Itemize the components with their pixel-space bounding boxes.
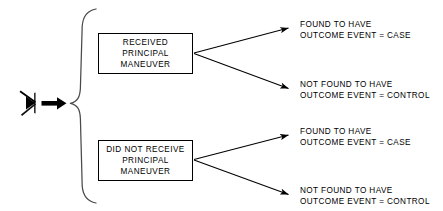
outcome-label-not-received-control: NOT FOUND TO HAVE OUTCOME EVENT = CONTRO… (300, 185, 430, 208)
node-box-received-line-3: MANEUVER (120, 59, 170, 70)
outcome-label-not-received-control-line-2: OUTCOME EVENT = CONTROL (300, 196, 430, 207)
node-box-not-received-line-2: PRINCIPAL (122, 155, 169, 166)
node-box-not-received-line-3: MANEUVER (120, 166, 170, 177)
outcome-label-not-received-case-line-1: FOUND TO HAVE (300, 126, 411, 137)
outcome-label-received-case-line-2: OUTCOME EVENT = CASE (300, 30, 411, 41)
outcome-label-not-received-case: FOUND TO HAVE OUTCOME EVENT = CASE (300, 126, 411, 149)
outcome-label-received-control-line-1: NOT FOUND TO HAVE (300, 79, 430, 90)
node-box-received-line-2: PRINCIPAL (122, 48, 169, 59)
arrowhead-left-glyph (20, 91, 37, 116)
branch-arrows-received (194, 28, 289, 89)
outcome-label-not-received-case-line-2: OUTCOME EVENT = CASE (300, 137, 411, 148)
outcome-label-received-control: NOT FOUND TO HAVE OUTCOME EVENT = CONTRO… (300, 79, 430, 102)
bold-right-arrow-icon (42, 97, 67, 109)
node-box-received-line-1: RECEIVED (123, 37, 168, 48)
node-box-not-received-line-1: DID NOT RECEIVE (106, 144, 184, 155)
node-box-not-received: DID NOT RECEIVE PRINCIPAL MANEUVER (98, 140, 193, 181)
outcome-label-not-received-control-line-1: NOT FOUND TO HAVE (300, 185, 430, 196)
outcome-label-received-case: FOUND TO HAVE OUTCOME EVENT = CASE (300, 19, 411, 42)
outcome-label-received-case-line-1: FOUND TO HAVE (300, 19, 411, 30)
branch-arrows-not-received (194, 135, 289, 195)
study-design-diagram: RECEIVED PRINCIPAL MANEUVER DID NOT RECE… (0, 0, 443, 211)
large-curly-brace-icon (71, 9, 97, 203)
outcome-label-received-control-line-2: OUTCOME EVENT = CONTROL (300, 90, 430, 101)
node-box-received: RECEIVED PRINCIPAL MANEUVER (98, 33, 193, 74)
